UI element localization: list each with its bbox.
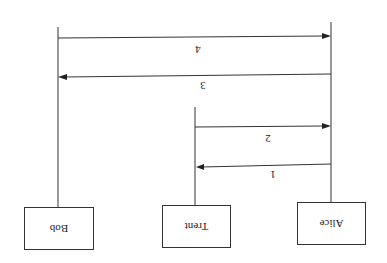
actor-label-alice: Alice	[298, 218, 365, 230]
arrowhead-right-icon	[322, 123, 331, 129]
message-1-arrow	[196, 164, 331, 170]
arrowhead-left-icon	[58, 74, 67, 80]
actor-box-alice: Alice	[297, 202, 366, 245]
actor-label-bob: Bob	[25, 223, 93, 235]
message-3-arrow	[58, 74, 331, 80]
actor-box-bob: Bob	[24, 207, 94, 250]
actor-box-trent: Trent	[162, 205, 231, 248]
actor-label-trent: Trent	[163, 221, 230, 233]
arrowhead-left-icon	[196, 164, 204, 170]
message-4-label: 4	[195, 44, 201, 56]
arrowhead-right-icon	[322, 33, 331, 39]
message-1-label: 1	[270, 169, 276, 181]
message-4-arrow	[58, 33, 331, 39]
message-2-label: 2	[265, 133, 271, 145]
sequence-diagram: 4 3 2 1 Bob Trent Alice	[0, 0, 387, 263]
message-3-label: 3	[200, 80, 206, 92]
message-2-arrow	[195, 123, 331, 129]
